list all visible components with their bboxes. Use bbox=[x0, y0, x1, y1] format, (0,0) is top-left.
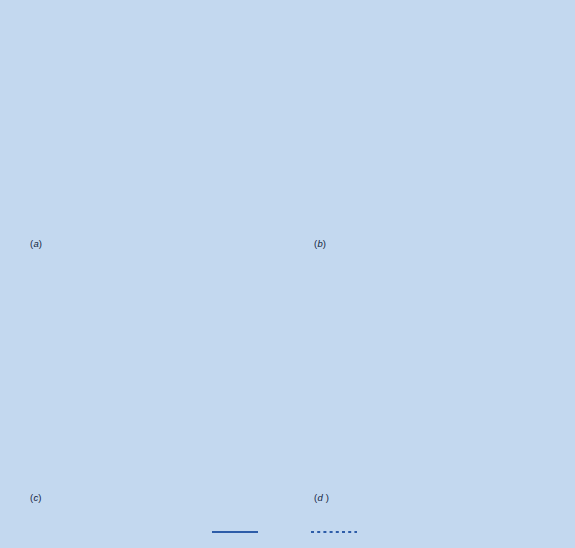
legend-item-real-stock-price bbox=[311, 528, 364, 536]
panel-sweden bbox=[300, 268, 575, 490]
figure-root: (a) (b) (c) (d ) bbox=[0, 0, 575, 548]
legend bbox=[0, 528, 575, 536]
panel-germany bbox=[300, 6, 575, 236]
legend-item-labour-share bbox=[212, 528, 265, 536]
solid-line-swatch bbox=[212, 528, 258, 536]
dotted-line-swatch bbox=[311, 528, 357, 536]
caption-sweden: (d ) bbox=[314, 492, 332, 503]
caption-germany: (b) bbox=[314, 238, 329, 249]
caption-uk: (c) bbox=[30, 492, 45, 503]
caption-usa: (a) bbox=[30, 238, 45, 249]
panel-uk bbox=[14, 268, 290, 490]
panel-usa bbox=[14, 6, 290, 236]
